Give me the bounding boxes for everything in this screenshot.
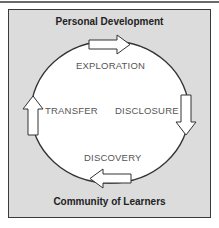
stage-transfer: TRANSFER [45, 105, 98, 116]
bottom-label: Community of Learners [0, 196, 219, 207]
stage-disclosure: DISCLOSURE [115, 105, 179, 116]
stage-discovery: DISCOVERY [84, 152, 142, 163]
top-label: Personal Development [0, 16, 219, 27]
stage-exploration: EXPLORATION [76, 60, 145, 71]
cycle-diagram [0, 0, 219, 228]
